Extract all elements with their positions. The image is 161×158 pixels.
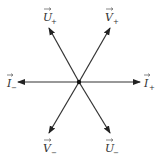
label-u-plus: U + bbox=[43, 8, 57, 27]
label-u-minus: U − bbox=[105, 139, 119, 158]
arrow-u-minus bbox=[79, 82, 110, 133]
arrow-v-plus bbox=[79, 28, 110, 82]
arrow-v-minus bbox=[49, 82, 79, 133]
svg-text:+: + bbox=[113, 18, 119, 26]
svg-text:+: + bbox=[51, 18, 57, 26]
svg-text:+: + bbox=[149, 84, 155, 92]
label-i-minus: I − bbox=[6, 74, 17, 93]
vector-diagram: U + V + I − I + V − U − bbox=[0, 0, 161, 158]
label-v-minus: V − bbox=[43, 139, 57, 158]
svg-text:−: − bbox=[51, 149, 57, 157]
center-point bbox=[77, 80, 81, 84]
arrow-u-plus bbox=[49, 28, 79, 82]
label-i-plus: I + bbox=[143, 74, 155, 93]
svg-text:−: − bbox=[11, 84, 17, 92]
label-v-plus: V + bbox=[105, 8, 119, 27]
svg-text:−: − bbox=[113, 149, 119, 157]
